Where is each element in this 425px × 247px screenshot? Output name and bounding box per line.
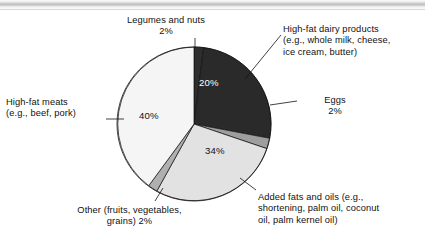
label-high-fat-meats: High-fat meats (e.g., beef, pork) xyxy=(6,97,124,120)
slice-value-dairy: 20% xyxy=(199,77,219,88)
label-high-fat-dairy-products: High-fat dairy products (e.g., whole mil… xyxy=(283,24,423,58)
label-other-fruits-vegetables-grains: Other (fruits, vegetables, grains) 2% xyxy=(52,205,207,228)
label-eggs: Eggs 2% xyxy=(300,95,370,118)
label-added-fats-and-oils: Added fats and oils (e.g., shortening, p… xyxy=(258,192,423,226)
slice-value-meats: 40% xyxy=(139,110,159,121)
pie-chart-figure: Legumes and nuts 2% High-fat dairy produ… xyxy=(0,0,425,247)
leader-line-dairy xyxy=(245,35,281,79)
leader-line-eggs xyxy=(270,101,297,105)
slice-value-oils: 34% xyxy=(205,145,225,156)
label-legumes-and-nuts: Legumes and nuts 2% xyxy=(105,15,227,38)
